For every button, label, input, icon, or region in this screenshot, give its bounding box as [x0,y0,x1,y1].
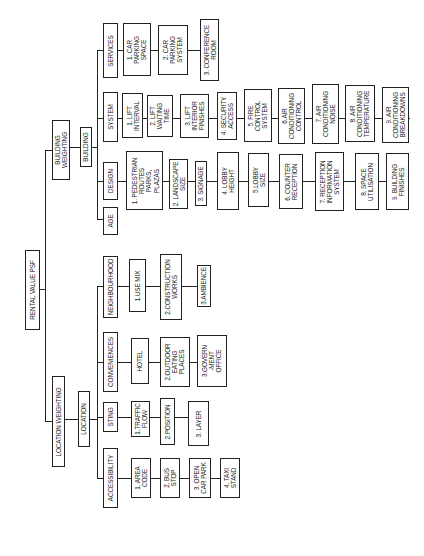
design-item-2: 2. LANDSCAPE SIZE [169,159,188,209]
building-spine [97,50,98,220]
design-item-7: 7. RECEPTION INFORMATION SYSTEM [315,152,344,211]
design-item-3: 3. SIGNAGE [195,161,207,206]
sting-item-3: 3. LAYER [188,401,209,446]
accessibility-item-3: 3. OPEN CAR PARK [189,458,211,498]
design-item-4: 4. LOBBY HEIGHT [217,152,239,210]
services-item-1: 1. CAR PARKING SPACE [123,23,151,76]
connector [45,421,52,422]
design-item-8: 8. SPACE UTILISATION [355,153,379,210]
root-rental-value-psf: RENTAL VALUE PSF [25,250,40,330]
system-node: SYSTEM [103,92,118,142]
services-item-2: 2. CAR PARKING SYSTEM [158,25,188,75]
services-node: SERVICES [103,23,118,78]
connector [65,419,78,420]
system-item-9: 9. AIR CONDITIONING BREAKDOWNS [382,87,409,143]
sting-node: STING [103,402,118,432]
sting-item-1: 1.TRAFFIC FLOW [131,401,150,437]
accessibility-node: ACCESSIBILITY [103,448,118,508]
accessibility-item-4: 4. TAXI STAND [220,458,240,498]
rental-value-hierarchy-diagram: RENTAL VALUE PSF BUILDING WEIGHTING BUIL… [0,0,424,556]
building-weighting-node: BUILDING WEIGHTING [52,120,70,180]
neighbourhood-item-2: 2.CONSTRUCTION WORKS [160,254,182,320]
system-item-3: 3. LIFT INTERIOR FINISHES [180,94,209,138]
design-item-1: 1. PEDESTRIAN ROUTES PARKS, PLAZAS [126,151,163,210]
system-item-2: 2. LIFT WAITING TIME [147,95,173,137]
conveniences-item-3: 3.GOVERN -MENT OFFICE [197,335,227,387]
building-node: BUILDING [80,127,92,167]
design-node: DESIGN [103,162,118,200]
location-weighting-node: LOCATION WEIGHTING [52,376,65,467]
age-node: AGE [103,207,118,235]
connector [45,150,52,151]
connector [90,419,97,420]
accessibility-item-2: 2. BUS STOP [160,458,180,498]
sting-item-2: 2.POSITION [160,398,175,445]
system-item-8: 8. AIR CONDITIONING TEMPERATURE [345,85,375,142]
system-item-7: 7. AIR CONDITIONING NOISE [312,84,339,144]
connector [70,147,80,148]
conveniences-item-1: HOTEL [131,338,149,384]
neighbourhood-item-3: 3.AMBIENCE [197,265,211,307]
neighbourhood-node: NEIGHBOURHOOD [103,256,118,318]
conveniences-node: CONVENIENCES [103,332,118,392]
system-item-4: 4. SECURITY ACCESS [217,92,237,140]
sting-row-line [118,417,192,418]
conveniences-item-2: 2.OUTDOOR EATING PLACES [160,337,190,387]
trunk-line [45,150,46,422]
design-item-5: 5.LOBBY SIZE [248,153,269,207]
accessibility-item-1: 1. AREA CODE [131,458,151,498]
system-item-5: 5. FIRE CONTROL SYSTEM [244,89,272,142]
system-item-6: 6.AIR CONDITIONING CONTROL [278,88,305,144]
services-item-3: 3. CONFERENCE ROOM [200,19,219,81]
system-item-1: 1. LIFT INTERVAL [122,93,143,138]
location-spine [97,286,98,479]
location-node: LOCATION [78,391,90,447]
design-item-9: 9. BUILDING FINISHES [386,153,409,210]
neighbourhood-item-1: 1.USE MIX [129,259,146,312]
design-item-6: 6. COUNTER RECEPTION [279,154,303,209]
